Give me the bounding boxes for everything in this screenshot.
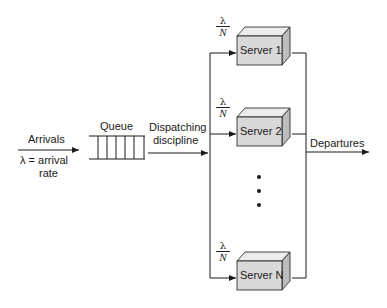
server-n-rate: λ N (216, 241, 230, 262)
departures-label: Departures (310, 137, 364, 150)
dispatcher-label-line2: discipline (153, 134, 198, 147)
queue-label: Queue (100, 120, 133, 133)
ellipsis-dots (257, 175, 261, 207)
dispatcher-label-line1: Dispatching (149, 121, 206, 134)
arrival-rate-label-line1: λ = arrival (20, 154, 68, 167)
queue-icon (89, 136, 145, 159)
arrivals-label: Arrivals (28, 133, 65, 146)
server-1-label: Server 1 (240, 44, 282, 57)
arrival-rate-label-line2: rate (39, 167, 58, 180)
server-2-label: Server 2 (240, 125, 282, 138)
server-n-label: Server N (240, 269, 283, 282)
server-1-rate: λ N (216, 16, 230, 37)
server-2-rate: λ N (216, 97, 230, 118)
